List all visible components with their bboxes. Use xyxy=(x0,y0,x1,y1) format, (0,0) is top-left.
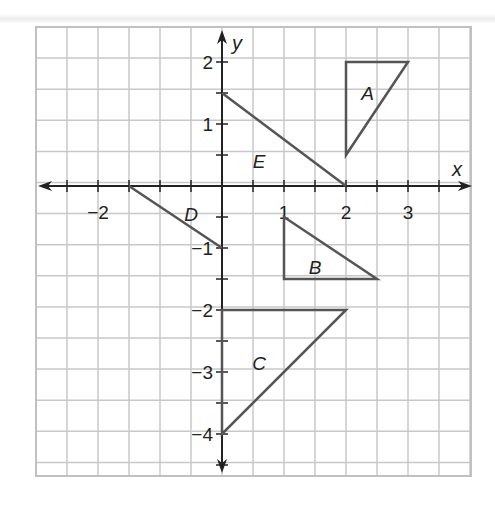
y-axis-label: y xyxy=(230,32,243,54)
coordinate-grid: −212321−1−2−3−4xyABCDE xyxy=(0,0,495,508)
x-tick-label: −2 xyxy=(87,202,109,223)
figure-label-c: C xyxy=(252,353,266,374)
figure-b xyxy=(284,217,377,279)
y-tick-label: 2 xyxy=(202,52,213,73)
x-tick-label: 2 xyxy=(341,202,352,223)
y-tick-label: 1 xyxy=(202,114,213,135)
y-tick-label: −4 xyxy=(191,424,213,445)
x-tick-label: 3 xyxy=(403,202,414,223)
figure-d xyxy=(129,186,222,248)
figure-label-a: A xyxy=(360,83,374,104)
figure-label-d: D xyxy=(184,204,198,225)
figure-label-b: B xyxy=(309,257,322,278)
x-axis-label: x xyxy=(451,158,463,180)
y-tick-label: −3 xyxy=(191,362,213,383)
y-tick-label: −2 xyxy=(191,300,213,321)
coordinate-plane-figure: −212321−1−2−3−4xyABCDE xyxy=(0,0,495,508)
figure-label-e: E xyxy=(253,151,266,172)
